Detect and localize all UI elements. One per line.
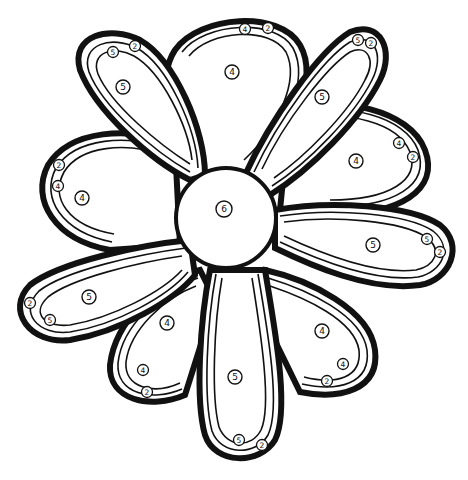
center-number-label: 6	[216, 201, 232, 217]
svg-text:2: 2	[28, 299, 33, 308]
svg-text:4: 4	[397, 139, 402, 148]
coloring-page-canvas: 6 4 4 4 4 4 5 5 5 5 5	[0, 0, 468, 480]
band-label: 4	[338, 359, 349, 370]
svg-text:5: 5	[319, 92, 325, 102]
svg-text:4: 4	[229, 67, 235, 77]
svg-text:4: 4	[341, 360, 346, 369]
front-petal-bottom[interactable]	[200, 270, 282, 458]
flower-drawing: 6 4 4 4 4 4 5 5 5 5 5	[0, 0, 468, 480]
svg-text:5: 5	[86, 292, 92, 302]
svg-text:4: 4	[141, 366, 146, 375]
front-petal-upper-right-label: 5	[315, 90, 329, 104]
front-petal-upper-left-label: 5	[116, 80, 130, 94]
back-petal-bottom-left-label: 4	[160, 316, 174, 330]
front-petal-right-label: 5	[366, 238, 380, 252]
band-label: 2	[54, 160, 65, 171]
back-petal-right-label: 4	[349, 154, 363, 168]
svg-text:4: 4	[319, 326, 325, 336]
front-petal-right[interactable]	[275, 205, 453, 286]
band-label: 2	[263, 23, 274, 34]
band-label: 2	[408, 152, 419, 163]
band-label: 5	[108, 47, 119, 58]
svg-text:2: 2	[266, 24, 271, 33]
svg-text:2: 2	[145, 388, 150, 397]
svg-text:2: 2	[411, 153, 416, 162]
svg-text:4: 4	[56, 182, 61, 191]
back-petal-left-label: 4	[75, 191, 89, 205]
flower-center[interactable]	[176, 168, 276, 268]
band-label: 4	[53, 181, 64, 192]
svg-text:5: 5	[111, 48, 116, 57]
band-label: 5	[353, 35, 364, 46]
band-label: 2	[322, 376, 333, 387]
svg-text:2: 2	[57, 161, 62, 170]
band-label: 2	[435, 247, 446, 258]
band-label: 5	[422, 234, 433, 245]
band-label: 2	[130, 41, 141, 52]
band-label: 4	[138, 365, 149, 376]
band-label: 4	[394, 138, 405, 149]
svg-text:4: 4	[353, 156, 359, 166]
svg-text:2: 2	[325, 377, 330, 386]
svg-text:5: 5	[120, 82, 126, 92]
svg-text:2: 2	[133, 42, 138, 51]
svg-text:5: 5	[237, 436, 242, 445]
svg-text:5: 5	[370, 240, 376, 250]
front-petal-left-label: 5	[82, 290, 96, 304]
svg-text:4: 4	[243, 25, 248, 34]
svg-text:4: 4	[79, 193, 85, 203]
front-petal-bottom-label: 5	[228, 370, 242, 384]
band-label: 4	[240, 24, 251, 35]
svg-text:4: 4	[164, 318, 170, 328]
svg-text:2: 2	[369, 39, 374, 48]
band-label: 2	[142, 387, 153, 398]
band-label: 2	[25, 298, 36, 309]
band-label: 2	[257, 440, 268, 451]
svg-text:2: 2	[260, 441, 265, 450]
band-label: 2	[366, 38, 377, 49]
svg-text:5: 5	[48, 316, 53, 325]
svg-text:6: 6	[221, 204, 227, 214]
svg-text:2: 2	[438, 248, 443, 257]
svg-text:5: 5	[425, 235, 430, 244]
band-label: 5	[45, 315, 56, 326]
svg-text:5: 5	[356, 36, 361, 45]
svg-text:5: 5	[232, 372, 238, 382]
back-petal-top-label: 4	[225, 65, 239, 79]
band-label: 5	[234, 435, 245, 446]
back-petal-bottom-right-label: 4	[315, 324, 329, 338]
